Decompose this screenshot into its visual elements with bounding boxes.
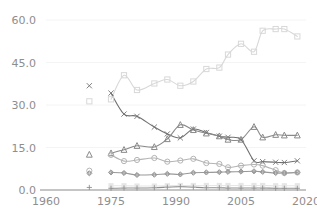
x-tick-label: 2005 <box>227 195 255 208</box>
x-tick-label: 1990 <box>162 195 190 208</box>
y-tick-label: 15.0 <box>12 142 37 155</box>
chart-container: 0.015.030.045.060.0 19601975199020052020 <box>0 0 317 220</box>
y-tick-label: 60.0 <box>12 14 37 27</box>
x-axis-tick-labels: 19601975199020052020 <box>32 195 317 208</box>
y-axis-tick-labels: 0.015.030.045.060.0 <box>12 14 37 197</box>
line-series-square <box>111 28 297 99</box>
data-point-cross <box>121 111 126 116</box>
data-point-cross <box>87 83 92 88</box>
data-point-cross <box>108 91 113 96</box>
series-markers <box>86 26 300 190</box>
data-point-cross <box>152 125 157 130</box>
data-point-triangle <box>86 151 92 157</box>
line-series-cross <box>111 93 297 163</box>
y-tick-label: 45.0 <box>12 57 37 70</box>
data-point-plus <box>87 185 92 190</box>
x-tick-label: 1960 <box>32 195 60 208</box>
data-point-square <box>87 99 92 104</box>
y-tick-label: 30.0 <box>12 99 37 112</box>
x-tick-label: 2020 <box>292 195 317 208</box>
line-chart: 0.015.030.045.060.0 19601975199020052020 <box>0 0 317 220</box>
x-tick-label: 1975 <box>97 195 125 208</box>
